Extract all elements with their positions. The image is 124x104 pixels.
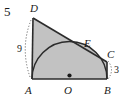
vertex-label-A: A xyxy=(25,85,32,96)
problem-number: 5 xyxy=(4,5,11,18)
geometry-figure: 5 D A B C E O 9 3 xyxy=(0,0,124,104)
measure-arc-DA xyxy=(25,20,31,77)
vertex-label-D: D xyxy=(30,3,38,14)
length-label-CB: 3 xyxy=(114,65,119,75)
vertex-label-C: C xyxy=(107,49,114,60)
vertex-label-E: E xyxy=(84,38,91,49)
center-dot-O xyxy=(67,73,71,77)
length-label-DA: 9 xyxy=(17,44,22,54)
vertex-label-B: B xyxy=(104,85,111,96)
vertex-label-O: O xyxy=(64,85,72,96)
segment-DA xyxy=(32,18,33,79)
measure-arc-CB xyxy=(108,61,112,79)
